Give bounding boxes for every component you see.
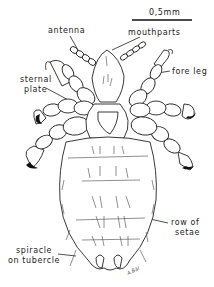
label-mouthparts: mouthparts xyxy=(128,28,181,37)
leg-right-front xyxy=(126,50,173,110)
label-spiracle-line2: on tubercle xyxy=(8,256,60,265)
label-row-of-setae-line1: row of xyxy=(171,218,199,227)
label-fore-leg: fore leg xyxy=(172,67,207,76)
leg-right-middle xyxy=(130,101,196,119)
label-sternal-plate-line2: plate xyxy=(24,85,47,94)
antenna-left xyxy=(69,45,97,67)
scale-bar-label: 0,5mm xyxy=(149,8,180,17)
scale-bar: 0,5mm xyxy=(132,8,192,20)
label-row-of-setae-line2: setae xyxy=(175,228,200,237)
artist-signature: A.Bäl xyxy=(125,265,141,277)
label-antenna: antenna xyxy=(48,26,85,35)
antenna-right xyxy=(119,41,146,62)
label-sternal-plate-line1: sternal xyxy=(20,75,52,84)
louse-diagram: 0,5mm antenna mouthparts fore leg sterna… xyxy=(0,0,214,287)
label-spiracle-line1: spiracle xyxy=(16,246,52,255)
